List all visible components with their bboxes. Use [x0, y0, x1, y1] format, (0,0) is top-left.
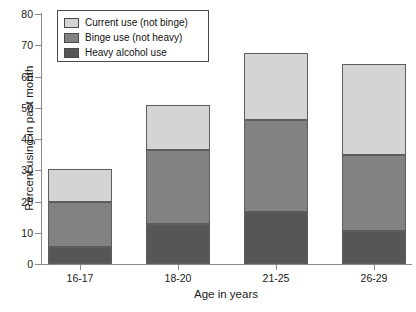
bar-group[interactable] — [244, 14, 308, 264]
bar-segment-binge[interactable] — [146, 150, 210, 224]
x-tick-label: 18-20 — [143, 272, 213, 284]
bar-segment-binge[interactable] — [48, 202, 112, 247]
y-tick-label: 50 — [3, 103, 33, 114]
chart-figure: Percent using in past month 010203040506… — [0, 0, 416, 312]
bar-segment-current[interactable] — [146, 105, 210, 150]
bar-segment-binge[interactable] — [244, 120, 308, 211]
bar-group[interactable] — [48, 14, 112, 264]
y-tick-label: 60 — [3, 72, 33, 83]
y-tick-mark — [35, 264, 41, 265]
bar-segment-heavy[interactable] — [244, 212, 308, 265]
y-tick-mark — [35, 233, 41, 234]
x-tick-mark — [178, 264, 179, 270]
x-axis-title: Age in years — [48, 288, 404, 300]
bar-segment-heavy[interactable] — [146, 224, 210, 264]
y-tick-label: 10 — [3, 228, 33, 239]
y-tick-label: 80 — [3, 9, 33, 20]
x-tick-mark — [374, 264, 375, 270]
y-tick-mark — [35, 45, 41, 46]
y-tick-mark — [35, 108, 41, 109]
y-axis-tick-labels: 01020304050607080 — [0, 0, 33, 312]
bar-segment-current[interactable] — [48, 169, 112, 201]
x-tick-label: 21-25 — [241, 272, 311, 284]
bar-segment-current[interactable] — [342, 64, 406, 155]
y-tick-mark — [35, 14, 41, 15]
y-tick-label: 70 — [3, 40, 33, 51]
y-tick-label: 20 — [3, 197, 33, 208]
y-tick-mark — [35, 202, 41, 203]
x-tick-mark — [80, 264, 81, 270]
y-tick-mark — [35, 139, 41, 140]
bar-group[interactable] — [146, 14, 210, 264]
x-axis-line — [41, 264, 412, 265]
y-tick-label: 40 — [3, 134, 33, 145]
bar-segment-current[interactable] — [244, 53, 308, 120]
y-tick-mark — [35, 77, 41, 78]
x-tick-label: 26-29 — [339, 272, 409, 284]
x-tick-label: 16-17 — [45, 272, 115, 284]
y-tick-label: 0 — [3, 259, 33, 270]
bar-segment-binge[interactable] — [342, 155, 406, 231]
bar-group[interactable] — [342, 14, 406, 264]
y-tick-mark — [35, 170, 41, 171]
bar-segment-heavy[interactable] — [48, 247, 112, 264]
y-tick-label: 30 — [3, 165, 33, 176]
bar-segment-heavy[interactable] — [342, 231, 406, 264]
x-tick-mark — [276, 264, 277, 270]
